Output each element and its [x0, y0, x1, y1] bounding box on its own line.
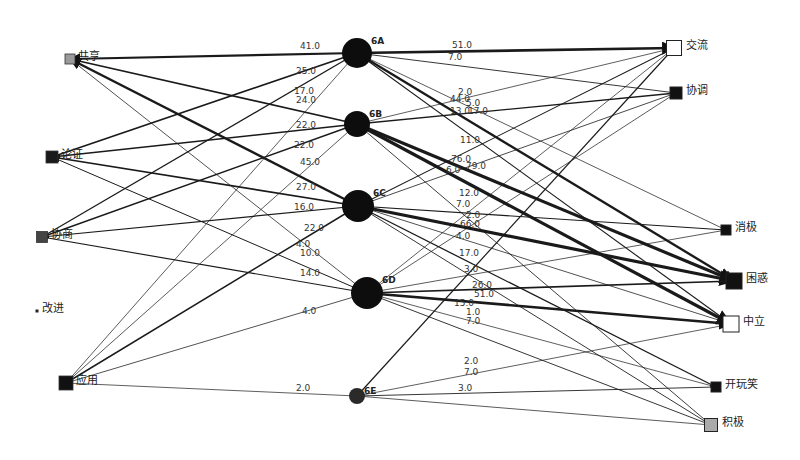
- edge-labels-layer: 41.025.017.024.022.022.045.027.016.022.0…: [294, 40, 494, 393]
- edge-weight-label: 7.0: [456, 199, 471, 209]
- node-square-icon: [705, 419, 718, 432]
- node-circle-icon: [342, 38, 372, 68]
- network-diagram: 41.025.017.024.022.022.045.027.016.022.0…: [0, 0, 800, 460]
- middle-node-6E[interactable]: 6E: [349, 386, 376, 404]
- edge-6B-positive: [357, 124, 711, 425]
- right-node-positive[interactable]: 积极: [705, 415, 744, 432]
- node-square-icon: [670, 87, 682, 99]
- edge-weight-label: 51.0: [452, 40, 472, 50]
- edges-layer: [42, 48, 734, 425]
- edge-6E-positive: [357, 396, 711, 425]
- edge-6B-confused: [357, 124, 734, 281]
- edge-6E-apply: [66, 383, 357, 396]
- node-square-icon: [65, 54, 75, 64]
- node-label: 困惑: [746, 271, 768, 285]
- right-node-coordinate[interactable]: 协调: [670, 83, 708, 99]
- edge-weight-label: 45.0: [300, 157, 320, 167]
- edge-weight-label: 24.0: [296, 95, 316, 105]
- node-square-icon: [721, 225, 731, 235]
- edge-6D-neutral: [367, 293, 731, 324]
- node-label: 中立: [743, 314, 765, 328]
- node-label: 6B: [369, 109, 382, 119]
- edge-6A-exchange: [357, 48, 674, 53]
- edge-weight-label: 22.0: [296, 120, 316, 130]
- node-circle-icon: [351, 277, 383, 309]
- node-circle-icon: [349, 388, 365, 404]
- edge-weight-label: 51.0: [474, 289, 494, 299]
- edge-6D-coordinate: [367, 93, 676, 293]
- node-circle-icon: [344, 111, 370, 137]
- edge-weight-label: 22.0: [294, 140, 314, 150]
- edge-weight-label: 27.0: [296, 182, 316, 192]
- edge-6C-positive: [358, 206, 711, 425]
- edge-weight-label: 7.0: [448, 52, 463, 62]
- node-label: 改进: [42, 301, 64, 315]
- left-node-improve[interactable]: 改进: [36, 301, 64, 315]
- node-square-icon: [59, 376, 73, 390]
- left-node-argue[interactable]: 论证: [46, 147, 83, 163]
- edge-weight-label: 15.0: [454, 298, 474, 308]
- node-label: 6E: [364, 386, 376, 396]
- node-label: 6D: [382, 275, 396, 285]
- left-node-share[interactable]: 共享: [65, 49, 100, 64]
- edge-weight-label: 7.0: [464, 367, 479, 377]
- edge-weight-label: 17.0: [459, 248, 479, 258]
- edge-weight-label: 5.0: [466, 98, 481, 108]
- edge-weight-label: 25.0: [296, 66, 316, 76]
- edge-6B-neutral: [357, 124, 731, 324]
- edge-weight-label: 10.0: [300, 248, 320, 258]
- edge-weight-label: 11.0: [460, 135, 480, 145]
- node-label: 协调: [686, 83, 708, 97]
- edge-weight-label: 3.0: [464, 264, 479, 274]
- node-circle-icon: [342, 190, 374, 222]
- edge-weight-label: 7.0: [466, 316, 481, 326]
- node-square-icon: [46, 151, 58, 163]
- edge-weight-label: 3.0: [458, 383, 473, 393]
- node-label: 共享: [78, 49, 100, 63]
- node-label: 交流: [686, 38, 708, 52]
- edge-6D-negotiate: [42, 237, 367, 293]
- node-square-icon: [711, 382, 721, 392]
- edge-weight-label: 2.0: [458, 87, 473, 97]
- edge-weight-label: 2.0: [296, 383, 311, 393]
- edge-weight-label: 2.0: [466, 210, 481, 220]
- node-square-icon: [723, 316, 739, 332]
- edge-weight-label: 16.0: [294, 202, 314, 212]
- right-node-confused[interactable]: 困惑: [726, 271, 768, 289]
- edge-weight-label: 66.0: [460, 219, 480, 229]
- right-node-negative[interactable]: 消极: [721, 220, 757, 235]
- node-label: 论证: [61, 147, 83, 161]
- left-node-apply[interactable]: 应用: [59, 373, 98, 390]
- right-node-joke[interactable]: 开玩笑: [711, 377, 758, 392]
- edge-weight-label: 41.0: [300, 41, 320, 51]
- edge-6D-confused: [367, 281, 734, 293]
- edge-weight-label: 4.0: [302, 306, 317, 316]
- node-square-icon: [36, 310, 39, 313]
- edge-weight-label: 6.0: [446, 165, 461, 175]
- edge-6C-confused: [358, 206, 734, 281]
- node-square-icon: [667, 41, 682, 56]
- node-square-icon: [37, 232, 48, 243]
- node-label: 应用: [76, 373, 98, 387]
- edge-weight-label: 22.0: [304, 223, 324, 233]
- edge-weight-label: 12.0: [459, 188, 479, 198]
- right-node-exchange[interactable]: 交流: [667, 38, 708, 56]
- edge-weight-label: 4.0: [456, 231, 471, 241]
- node-label: 积极: [722, 415, 744, 429]
- left-node-negotiate[interactable]: 协商: [37, 227, 73, 243]
- edge-6D-apply: [66, 293, 367, 383]
- node-square-icon: [726, 273, 742, 289]
- edge-weight-label: 14.0: [300, 268, 320, 278]
- node-label: 协商: [51, 227, 73, 241]
- edge-weight-label: 79.0: [466, 161, 486, 171]
- right-node-neutral[interactable]: 中立: [723, 314, 765, 332]
- node-label: 6C: [373, 188, 386, 198]
- edge-weight-label: 2.0: [464, 356, 479, 366]
- node-label: 开玩笑: [725, 377, 758, 391]
- node-label: 消极: [735, 220, 757, 234]
- edge-6A-share: [70, 53, 357, 59]
- edge-6D-share: [70, 59, 367, 293]
- node-label: 6A: [371, 36, 384, 46]
